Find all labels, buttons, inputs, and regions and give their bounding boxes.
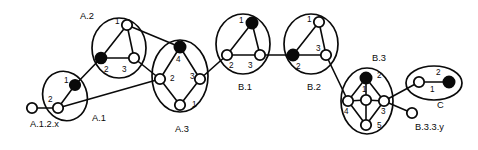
node-C-2[interactable] (443, 76, 454, 87)
node-number-A3-4: 4 (176, 55, 181, 64)
free-node-B.3.3.y[interactable] (407, 108, 417, 118)
free-node-label-A.1.2.x: A.1.2.x (30, 119, 59, 129)
node-C-1[interactable] (414, 77, 424, 87)
node-B3-4[interactable] (343, 96, 353, 106)
node-A3-4[interactable] (174, 41, 185, 52)
node-B2-3[interactable] (321, 50, 331, 60)
cluster-graph-svg: 12A.1123A.24231A.3123B.1123B.221435B.312… (0, 0, 478, 150)
node-A3-2[interactable] (155, 74, 165, 84)
cluster-A2 (92, 18, 146, 78)
cluster-label-A1: A.1 (92, 113, 106, 123)
cluster-label-B2: B.2 (307, 82, 321, 92)
node-B2-1[interactable] (314, 17, 324, 27)
inter-cluster-edge (127, 25, 180, 47)
node-number-A3-3: 3 (190, 72, 195, 81)
node-number-A3-2: 2 (170, 74, 175, 83)
cluster-label-C: C (437, 100, 444, 110)
cluster-outline-A2 (92, 18, 146, 78)
diagram-canvas: 12A.1123A.24231A.3123B.1123B.221435B.312… (0, 0, 478, 150)
node-number-B3-4: 4 (344, 107, 349, 116)
node-number-A1-2: 2 (48, 95, 53, 104)
node-A2-2[interactable] (96, 53, 107, 64)
node-number-B3-1: 1 (362, 85, 367, 94)
node-A1-1[interactable] (70, 80, 80, 90)
node-number-A1-1: 1 (64, 76, 69, 85)
free-node-A.1.2.x[interactable] (27, 103, 37, 113)
node-number-A2-2: 2 (104, 65, 109, 74)
node-A1-2[interactable] (53, 103, 63, 113)
inter-cluster-edge (326, 55, 348, 101)
cluster-C (406, 66, 462, 100)
node-A2-1[interactable] (122, 20, 132, 30)
node-number-B3-2: 2 (377, 71, 382, 80)
node-B3-5[interactable] (361, 120, 371, 130)
node-number-B2-2: 2 (296, 62, 301, 71)
cluster-label-A2: A.2 (80, 11, 94, 21)
cluster-A3 (152, 40, 208, 112)
node-number-A3-1: 1 (192, 100, 197, 109)
node-number-C-1: 1 (430, 85, 435, 94)
node-A3-1[interactable] (175, 100, 185, 110)
node-number-B1-3: 3 (248, 61, 253, 70)
node-number-B3-5: 5 (377, 121, 382, 130)
node-A2-3[interactable] (129, 53, 139, 63)
node-B1-3[interactable] (255, 50, 265, 60)
node-number-B1-1: 1 (239, 16, 244, 25)
node-number-B3-3: 3 (381, 107, 386, 116)
cluster-label-A3: A.3 (175, 124, 189, 134)
free-node-label-B.3.3.y: B.3.3.y (415, 122, 444, 132)
cluster-label-B1: B.1 (238, 82, 252, 92)
cluster-label-B3: B.3 (372, 53, 386, 63)
node-B2-2[interactable] (287, 49, 298, 60)
node-B3-1[interactable] (361, 95, 371, 105)
node-number-A2-3: 3 (122, 65, 127, 74)
cluster-B3 (341, 68, 393, 134)
node-A3-3[interactable] (195, 74, 205, 84)
node-B1-2[interactable] (222, 50, 232, 60)
node-B1-1[interactable] (246, 17, 257, 28)
intra-cluster-edge (101, 25, 127, 58)
node-number-A2-1: 1 (115, 17, 120, 26)
node-number-B2-3: 3 (316, 44, 321, 53)
node-number-B2-1: 1 (307, 15, 312, 24)
node-number-B1-2: 2 (229, 61, 234, 70)
node-B3-2[interactable] (360, 72, 371, 83)
node-number-C-2: 2 (436, 68, 441, 77)
node-B3-3[interactable] (379, 96, 389, 106)
